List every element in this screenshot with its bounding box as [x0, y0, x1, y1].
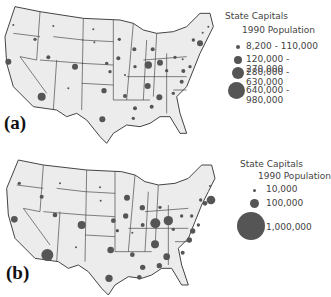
legend-label-1: 8,200 - 110,000 — [246, 41, 318, 51]
legend-a: State Capitals 1990 Population 8,200 - 1… — [225, 11, 325, 106]
panel-label-b: (b) — [6, 262, 29, 284]
legend-title: State Capitals — [240, 159, 303, 169]
legend-subtitle: 1990 Population — [242, 25, 315, 35]
legend-symbol-2 — [250, 199, 259, 208]
us-outline-a — [5, 7, 213, 144]
legend-label-1: 10,000 — [266, 184, 298, 194]
legend-title: State Capitals — [225, 11, 288, 21]
legend-symbol-3 — [237, 212, 265, 240]
legend-label-3: 280,000 - 630,000 — [246, 67, 325, 87]
legend-symbol-1 — [236, 45, 240, 49]
us-outline-b — [7, 160, 215, 295]
legend-symbol-1 — [253, 189, 256, 192]
us-map-b — [0, 150, 222, 297]
legend-label-3: 1,000,000 — [266, 222, 312, 232]
panel-label-a: (a) — [4, 112, 26, 134]
legend-label-4: 640,000 - 980,000 — [246, 85, 325, 105]
legend-subtitle: 1990 Population — [258, 171, 331, 181]
legend-label-2: 100,000 — [266, 198, 303, 208]
legend-symbol-3 — [232, 67, 244, 79]
legend-symbol-2 — [234, 56, 242, 64]
us-map-a — [0, 0, 220, 145]
legend-b: State Capitals 1990 Population 10,000 10… — [240, 159, 327, 244]
legend-symbol-4 — [228, 82, 245, 99]
